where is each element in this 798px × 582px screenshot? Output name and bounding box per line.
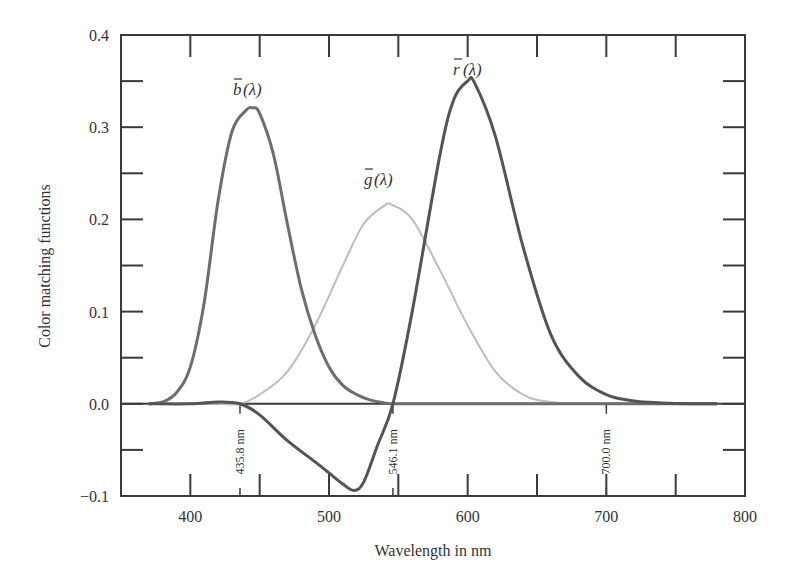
y-tick-label: 0.4 xyxy=(89,27,109,44)
label-b-lambda: b(λ) xyxy=(233,79,262,99)
wavelength-annotations: 435.8 nm546.1 nm700.0 nm xyxy=(233,404,613,496)
y-tick-label: 0.0 xyxy=(89,396,109,413)
curve-labels: b(λ)g(λ)r(λ) xyxy=(233,59,482,189)
y-tick-label: −0.1 xyxy=(80,488,109,505)
axis-ticks xyxy=(121,35,745,496)
wavelength-annotation: 435.8 nm xyxy=(233,429,247,475)
y-tick-label: 0.3 xyxy=(89,119,109,136)
wavelength-annotation: 700.0 nm xyxy=(599,429,613,475)
x-axis-title: Wavelength in nm xyxy=(375,542,492,560)
x-tick-label: 400 xyxy=(178,508,202,525)
curve-label-suffix: (λ) xyxy=(374,170,393,189)
color-matching-chart: 4005006007008000.40.30.20.10.0−0.1 435.8… xyxy=(0,0,798,582)
label-g-lambda: g(λ) xyxy=(364,169,393,189)
x-tick-label: 700 xyxy=(594,508,618,525)
curves xyxy=(149,77,718,490)
x-tick-label: 800 xyxy=(733,508,757,525)
curve-g xyxy=(149,203,718,404)
curve-label-letter: b xyxy=(233,80,242,99)
x-tick-label: 500 xyxy=(317,508,341,525)
x-tick-label: 600 xyxy=(456,508,480,525)
plot-border xyxy=(121,35,745,496)
curve-label-suffix: (λ) xyxy=(243,80,262,99)
plot-frame xyxy=(121,35,745,496)
y-tick-label: 0.2 xyxy=(89,211,109,228)
curve-label-letter: g xyxy=(364,170,373,189)
curve-label-letter: r xyxy=(453,60,460,79)
wavelength-annotation: 546.1 nm xyxy=(386,429,400,475)
label-r-lambda: r(λ) xyxy=(453,59,482,79)
curve-label-suffix: (λ) xyxy=(463,60,482,79)
curve-r xyxy=(149,77,718,490)
y-axis-title: Color matching functions xyxy=(36,184,54,348)
y-tick-label: 0.1 xyxy=(89,304,109,321)
